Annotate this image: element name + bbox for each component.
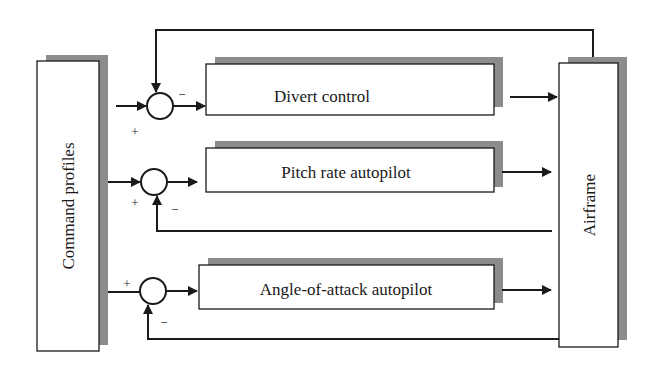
aoa-label: Angle-of-attack autopilot <box>260 280 433 299</box>
sum1-plus-sign: + <box>131 124 138 139</box>
divert-control-block: Divert control <box>206 57 503 115</box>
sum2-plus-sign: + <box>131 195 138 210</box>
sum-circle-3 <box>140 278 166 304</box>
sum2-minus-sign: − <box>171 202 178 217</box>
sum-circle-1 <box>147 93 173 119</box>
control-block-diagram: Command profiles Airframe Divert control… <box>0 0 657 368</box>
aoa-autopilot-block: Angle-of-attack autopilot <box>199 258 503 309</box>
aoa-feedback-path <box>148 305 559 339</box>
command-profiles-label: Command profiles <box>59 142 78 269</box>
command-profiles-block: Command profiles <box>37 55 108 351</box>
airframe-label: Airframe <box>580 174 599 236</box>
divert-control-label: Divert control <box>274 87 370 106</box>
pitch-feedback-path <box>157 196 552 231</box>
sum-circle-2 <box>141 169 167 195</box>
sum1-minus-sign: − <box>178 87 185 102</box>
sum3-plus-sign: + <box>123 276 130 291</box>
airframe-block: Airframe <box>559 57 627 347</box>
pitch-rate-label: Pitch rate autopilot <box>281 163 411 182</box>
pitch-rate-autopilot-block: Pitch rate autopilot <box>206 141 503 192</box>
sum3-minus-sign: − <box>160 315 167 330</box>
